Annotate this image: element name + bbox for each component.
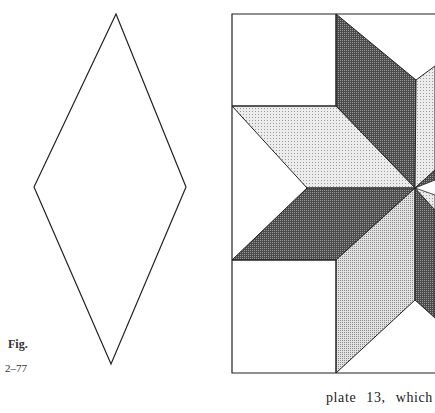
figure-canvas [0,0,435,413]
diamond-template-shape [34,14,186,364]
star-point-bottom-right-dark [415,188,435,318]
body-text-line: plate 13, which [326,390,433,406]
star-point-top-right-light [415,66,435,188]
quilt-block [232,14,435,373]
figure-number: 2–77 [5,362,27,374]
figure-label: Fig. [8,337,28,352]
